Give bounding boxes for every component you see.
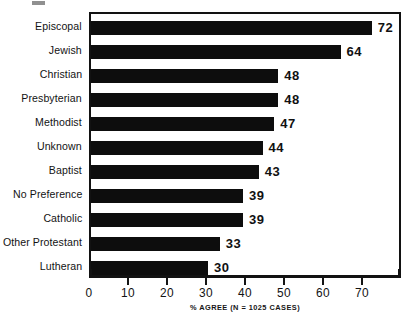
category-label: Catholic	[43, 211, 82, 225]
x-axis-tick-label: 40	[238, 286, 252, 300]
category-label: Other Protestant	[3, 235, 82, 249]
x-axis-tick	[205, 278, 207, 285]
x-axis-tick	[322, 278, 324, 285]
bar	[91, 45, 341, 59]
bar	[91, 117, 274, 131]
category-label: Baptist	[49, 163, 82, 177]
category-label: Lutheran	[39, 259, 82, 273]
bar-value-label: 47	[280, 117, 295, 131]
x-axis-right-endcap	[398, 269, 401, 278]
bar-value-label: 39	[249, 213, 264, 227]
x-axis-tick-label: 60	[316, 286, 330, 300]
plot-area: 7264484847444339393330	[89, 12, 401, 277]
bar-value-label: 39	[249, 189, 264, 203]
scan-artifact	[32, 1, 45, 5]
bar	[91, 21, 372, 35]
category-label: No Preference	[13, 187, 82, 201]
x-axis-tick	[361, 278, 363, 285]
category-label: Jewish	[49, 43, 82, 57]
x-axis-tick-label: 20	[160, 286, 174, 300]
category-label: Episcopal	[35, 19, 82, 33]
x-axis-tick-label: 70	[355, 286, 369, 300]
bar	[91, 69, 278, 83]
bar-value-label: 33	[226, 237, 241, 251]
x-axis-caption: % AGREE (N = 1025 CASES)	[89, 303, 401, 312]
x-axis-tick-label: 50	[277, 286, 291, 300]
x-axis-tick	[127, 278, 129, 285]
bars-container: 7264484847444339393330	[91, 14, 399, 277]
bar-value-label: 44	[269, 141, 284, 155]
x-axis-left-endcap	[89, 269, 92, 278]
bar	[91, 93, 278, 107]
bar	[91, 165, 259, 179]
bar-chart: EpiscopalJewishChristianPresbyterianMeth…	[0, 0, 414, 324]
category-axis-labels: EpiscopalJewishChristianPresbyterianMeth…	[0, 12, 86, 277]
x-axis-tick	[283, 278, 285, 285]
bar-value-label: 72	[378, 21, 393, 35]
x-axis-tick-label: 30	[199, 286, 213, 300]
bar-value-label: 64	[347, 45, 362, 59]
x-axis-tick-label: 0	[86, 286, 93, 300]
bar	[91, 213, 243, 227]
bar	[91, 237, 220, 251]
x-axis-tick	[166, 278, 168, 285]
bar-value-label: 48	[284, 69, 299, 83]
bar-value-label: 48	[284, 93, 299, 107]
category-label: Unknown	[37, 139, 82, 153]
x-axis-tick	[244, 278, 246, 285]
bar	[91, 189, 243, 203]
category-label: Christian	[39, 67, 82, 81]
x-axis-tick-label: 10	[121, 286, 135, 300]
category-label: Presbyterian	[21, 91, 82, 105]
bar	[91, 261, 208, 275]
category-label: Methodist	[35, 115, 82, 129]
bar	[91, 141, 263, 155]
bar-value-label: 30	[214, 261, 229, 275]
bar-value-label: 43	[265, 165, 280, 179]
